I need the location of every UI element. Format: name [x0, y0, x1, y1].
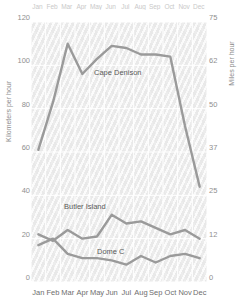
top-month-jul: Jul [118, 3, 133, 10]
top-month-sep: Sep [147, 3, 162, 10]
plot-area: Cape Denison Butler Island Dome C [31, 22, 207, 282]
y-axis-left-ticks: 120 100 80 60 40 20 0 [8, 18, 30, 286]
month-aug: Aug [134, 288, 149, 297]
series-label-layer: Cape Denison Butler Island Dome C [31, 22, 207, 282]
y-right-tick-62: 62 [209, 57, 231, 65]
y-left-tick-0: 0 [8, 274, 30, 282]
month-feb: Feb [46, 288, 61, 297]
top-month-mar: Mar [59, 3, 74, 10]
top-month-feb: Feb [45, 3, 60, 10]
top-month-dec: Dec [191, 3, 206, 10]
month-dec: Dec [192, 288, 207, 297]
y-right-tick-50: 50 [209, 101, 231, 109]
y-right-tick-12: 12 [209, 231, 231, 239]
series-label-cape-denison: Cape Denison [94, 68, 142, 77]
month-jul: Jul [119, 288, 134, 297]
month-sep: Sep [148, 288, 163, 297]
y-right-tick-37: 37 [209, 144, 231, 152]
month-nov: Nov [178, 288, 193, 297]
month-oct: Oct [163, 288, 178, 297]
series-label-dome-c: Dome C [97, 247, 125, 256]
month-jan: Jan [31, 288, 46, 297]
y-left-tick-120: 120 [8, 14, 30, 22]
y-left-tick-20: 20 [8, 231, 30, 239]
top-month-aug: Aug [133, 3, 148, 10]
y-left-tick-80: 80 [8, 101, 30, 109]
top-month-oct: Oct [162, 3, 177, 10]
y-left-tick-40: 40 [8, 187, 30, 195]
y-right-tick-25: 25 [209, 187, 231, 195]
x-axis-month-labels: Jan Feb Mar Apr May Jun Jul Aug Sep Oct … [31, 288, 207, 300]
top-month-jun: Jun [103, 3, 118, 10]
month-mar: Mar [60, 288, 75, 297]
top-month-may: May [89, 3, 104, 10]
top-month-axis: Jan Feb Mar Apr May Jun Jul Aug Sep Oct … [30, 0, 206, 10]
top-month-apr: Apr [74, 3, 89, 10]
y-left-tick-100: 100 [8, 57, 30, 65]
y-right-tick-75: 75 [209, 14, 231, 22]
y-left-tick-60: 60 [8, 144, 30, 152]
line-chart: Jan Feb Mar Apr May Jun Jul Aug Sep Oct … [0, 0, 239, 304]
y-axis-right-ticks: 75 62 50 37 25 12 0 [209, 18, 231, 286]
series-label-butler-island: Butler Island [64, 202, 106, 211]
top-month-nov: Nov [177, 3, 192, 10]
month-jun: Jun [104, 288, 119, 297]
month-may: May [90, 288, 105, 297]
month-apr: Apr [75, 288, 90, 297]
top-month-jan: Jan [30, 3, 45, 10]
y-right-tick-0: 0 [209, 274, 231, 282]
